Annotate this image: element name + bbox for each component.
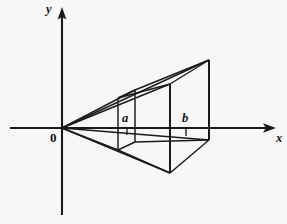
axis-group: [10, 7, 276, 215]
y-axis-label: y: [46, 3, 52, 16]
point-label-a: a: [122, 112, 128, 125]
edge-slice-a-bottom-right-to-bottom-right-corner: [135, 140, 209, 142]
edge-slice-a-top-right-to-slice-b-top-right: [135, 60, 209, 90]
slice-a-bottom-edge: [118, 142, 135, 150]
x-axis-label: x: [276, 132, 282, 145]
figure-canvas: [0, 0, 287, 224]
slice-b-top-edge: [170, 60, 209, 84]
edge-apex-to-slice-b-top-left: [62, 84, 170, 128]
geometry-figure: y x 0 a b: [0, 0, 287, 224]
edge-slice-a-bottom-left-to-front-bottom-vertex: [118, 150, 170, 173]
origin-label: 0: [50, 131, 57, 144]
slice-b-bottom-edge: [170, 140, 209, 173]
tick-group: [127, 128, 186, 136]
point-label-b: b: [182, 112, 188, 125]
